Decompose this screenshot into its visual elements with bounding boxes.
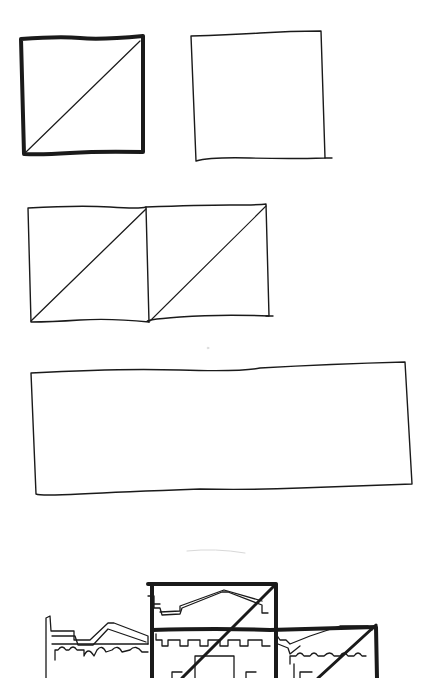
heavy-square-with-diagonal	[21, 36, 143, 154]
facade-with-regulating-squares	[46, 584, 377, 678]
faint-marks	[187, 347, 245, 553]
light-square	[191, 31, 332, 161]
double-square-with-diagonals	[28, 204, 273, 322]
proportion-sketch	[0, 0, 442, 678]
long-rectangle	[31, 362, 412, 495]
